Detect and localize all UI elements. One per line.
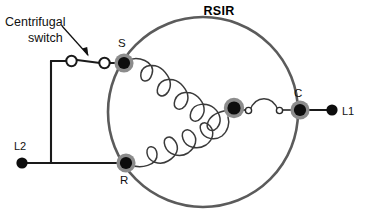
terminal-l2-node[interactable]	[16, 157, 27, 168]
rsir-motor-schematic: RSIR Centrifugal switch S R C L1 L2	[0, 0, 368, 213]
start-winding-coil	[124, 59, 229, 131]
centrifugal-switch-blade[interactable]	[77, 60, 100, 63]
terminal-s-node[interactable]	[118, 57, 130, 69]
terminal-label-s: S	[118, 37, 126, 49]
overload-arc	[250, 99, 278, 110]
run-winding-coil	[128, 117, 229, 167]
terminal-label-c: C	[294, 87, 302, 99]
overload-contact-left[interactable]	[245, 107, 251, 113]
overload-contact-right[interactable]	[276, 107, 282, 113]
centrifugal-switch-arrowhead	[82, 47, 88, 57]
centrifugal-switch-label-line1: Centrifugal	[5, 15, 65, 29]
terminal-label-l1: L1	[342, 105, 354, 117]
winding-junction-node[interactable]	[227, 101, 240, 114]
terminal-c-node[interactable]	[294, 104, 306, 116]
terminal-label-l2: L2	[14, 140, 26, 152]
terminal-r-node[interactable]	[120, 157, 132, 169]
motor-body-circle	[108, 17, 298, 207]
terminal-label-r: R	[120, 174, 128, 186]
diagram-title: RSIR	[203, 4, 234, 18]
terminal-l1-node[interactable]	[326, 104, 337, 115]
centrifugal-switch-contact-right[interactable]	[99, 58, 109, 68]
wiring-diagram: RSIR Centrifugal switch S R C L1 L2	[0, 0, 368, 213]
centrifugal-switch-contact-left[interactable]	[66, 56, 76, 66]
centrifugal-switch-label-line2: switch	[28, 31, 63, 45]
